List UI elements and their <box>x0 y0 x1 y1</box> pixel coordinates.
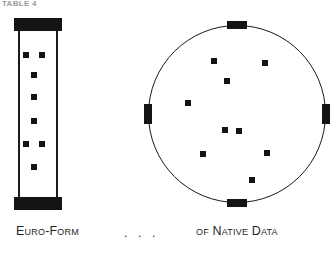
column-cap-bottom <box>14 197 62 210</box>
column-dot-0 <box>23 52 29 58</box>
circle-dot-6 <box>264 150 270 156</box>
circle-dot-5 <box>200 151 206 157</box>
circle-dot-3 <box>185 100 191 106</box>
circle-dot-4 <box>222 127 228 133</box>
caption-ellipsis: . . . <box>124 225 159 241</box>
circle-dot-8 <box>236 128 242 134</box>
column-dot-1 <box>39 52 45 58</box>
circle-dot-1 <box>262 60 268 66</box>
circle-marker-south <box>227 199 247 207</box>
column-dot-2 <box>31 72 37 78</box>
circle-marker-west <box>144 104 152 124</box>
circle-marker-east <box>322 104 330 124</box>
euro-form-column-diagram <box>14 18 62 210</box>
native-data-circle-diagram <box>148 25 326 203</box>
column-dot-7 <box>31 164 37 170</box>
column-dot-5 <box>23 141 29 147</box>
column-dot-3 <box>31 94 37 100</box>
caption-right-label: of Native Data <box>196 223 278 239</box>
caption-left-label: Euro-Form <box>16 223 79 239</box>
figure-caption-row: Euro-Form . . . of Native Data <box>0 222 330 242</box>
circle-marker-north <box>227 21 247 29</box>
circle-outline <box>148 25 326 203</box>
circle-dot-2 <box>224 78 230 84</box>
column-dot-4 <box>31 118 37 124</box>
column-cap-top <box>14 18 62 31</box>
column-dot-6 <box>39 141 45 147</box>
column-body <box>18 18 58 210</box>
circle-dot-7 <box>249 177 255 183</box>
figure-stage: Euro-Form . . . of Native Data <box>0 0 330 253</box>
circle-dot-0 <box>211 58 217 64</box>
